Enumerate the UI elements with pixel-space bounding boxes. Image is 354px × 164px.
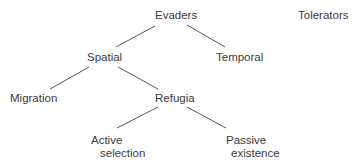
node-active-selection-line1: Active [91, 134, 122, 147]
tree-edges [0, 0, 354, 164]
node-passive-existence-line2: existence [231, 147, 280, 160]
node-refugia: Refugia [155, 92, 195, 105]
node-tolerators: Tolerators [298, 9, 349, 22]
edge-refugia-passive [187, 107, 226, 128]
node-temporal: Temporal [216, 51, 263, 64]
edge-evaders-spatial [116, 26, 155, 47]
edge-spatial-migration [50, 67, 89, 89]
node-active-selection-line2: selection [100, 147, 145, 160]
edge-refugia-active [117, 107, 158, 128]
node-evaders: Evaders [155, 9, 197, 22]
node-passive-existence-line1: Passive [226, 134, 266, 147]
edge-evaders-temporal [187, 25, 225, 47]
node-migration: Migration [10, 92, 57, 105]
classification-tree-diagram: Evaders Tolerators Spatial Temporal Migr… [0, 0, 354, 164]
edge-spatial-refugia [118, 67, 158, 89]
node-spatial: Spatial [87, 51, 122, 64]
